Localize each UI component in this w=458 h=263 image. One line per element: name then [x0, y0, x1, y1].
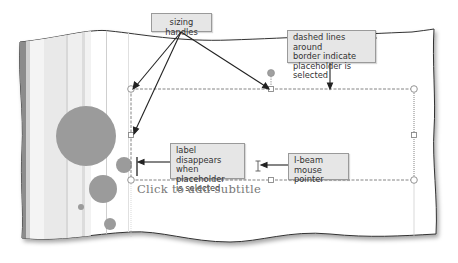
- callout-label-disappears-line1: label disappears: [176, 146, 239, 165]
- callout-dashed-lines: dashed lines around border indicate plac…: [287, 30, 376, 63]
- handle-bottom-left: [128, 177, 135, 184]
- handle-bottom-middle: [269, 178, 274, 183]
- callout-ibeam-pointer-line1: I-beam mouse: [294, 156, 343, 175]
- handle-bottom-right: [411, 177, 418, 184]
- handle-top-right: [411, 86, 418, 93]
- slide-screenshot: sizing handles dashed lines around borde…: [0, 0, 458, 263]
- handle-right-middle: [412, 133, 417, 138]
- callout-label-disappears: label disappears when placeholder is sel…: [170, 143, 245, 179]
- callout-ibeam-pointer: I-beam mouse pointer: [288, 153, 349, 180]
- callout-dashed-lines-line1: dashed lines around: [293, 33, 370, 52]
- callout-sizing-handles: sizing handles: [151, 13, 212, 32]
- callout-sizing-handles-text: sizing handles: [165, 17, 198, 37]
- subtitle-placeholder[interactable]: Click to add subtitle: [137, 182, 261, 196]
- callout-ibeam-pointer-line2: pointer: [294, 175, 343, 185]
- callout-dashed-lines-line3: placeholder is selected: [293, 62, 370, 81]
- handle-left-middle: [129, 133, 134, 138]
